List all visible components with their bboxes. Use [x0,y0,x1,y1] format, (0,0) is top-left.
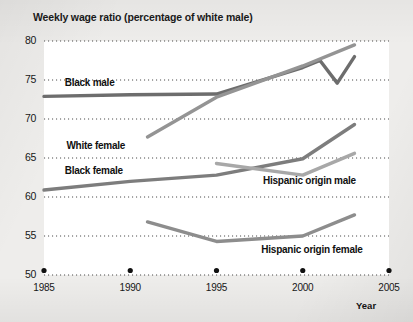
x-tick-label-1995: 1995 [195,282,239,293]
x-tick-dot-2005 [386,268,391,273]
series-line-white-female [148,45,355,137]
x-tick-label-2005: 2005 [367,282,411,293]
y-tick-label-75: 75 [10,73,36,85]
y-tick-label-50: 50 [10,268,36,280]
series-label-hispanic-origin-male: Hispanic origin male [263,175,356,186]
series-line-hispanic-origin-female [148,215,355,242]
series-label-hispanic-origin-female: Hispanic origin female [261,244,362,255]
y-tick-label-55: 55 [10,229,36,241]
series-label-white-female: White female [66,140,125,151]
x-tick-dot-1990 [128,268,133,273]
x-tick-label-1985: 1985 [22,282,66,293]
x-tick-label-2000: 2000 [281,282,325,293]
y-tick-label-70: 70 [10,112,36,124]
x-tick-dot-1995 [214,268,219,273]
x-tick-label-1990: 1990 [108,282,152,293]
y-tick-label-65: 65 [10,151,36,163]
x-tick-dot-1985 [41,268,46,273]
series-label-black-male: Black male [65,77,115,88]
chart-svg [0,0,413,322]
y-tick-label-60: 60 [10,190,36,202]
series-label-black-female: Black female [65,165,123,176]
y-tick-label-80: 80 [10,34,36,46]
x-axis-title: Year [356,300,376,311]
x-tick-dot-2000 [300,268,305,273]
